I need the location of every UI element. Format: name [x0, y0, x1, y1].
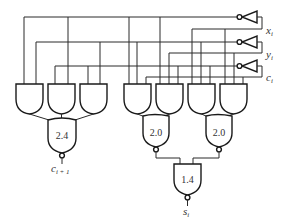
sum-gate-3: [188, 84, 215, 114]
carry-gate-3: [80, 84, 107, 114]
output-label-carry: ci + 1: [51, 162, 70, 176]
sum-gate-4: [220, 84, 247, 114]
inverter-y: [237, 36, 262, 53]
sum-gate-1: [124, 84, 151, 114]
input-label-c: ci: [266, 71, 273, 85]
carry-input-wires: [24, 17, 100, 84]
sum-input-wires: [129, 17, 243, 84]
sum-final-wires: [156, 152, 219, 164]
input-label-y: yi: [265, 48, 273, 62]
inverter-c: [237, 60, 262, 77]
sum-output-gate: 1.4: [174, 164, 201, 206]
input-label-x: xi: [265, 24, 273, 38]
full-adder-circuit: 2.4 2.0 2.0 1.4 xi yi ci ci + 1 si: [0, 0, 287, 223]
sum-left-gate: 2.0: [143, 115, 169, 152]
sum-output-gate-label: 1.4: [181, 174, 194, 185]
carry-gate-label: 2.4: [56, 130, 69, 141]
carry-output-gate: 2.4: [48, 118, 76, 164]
sum-right-gate: 2.0: [206, 115, 232, 152]
sum-right-gate-label: 2.0: [213, 127, 226, 138]
sum-left-gate-label: 2.0: [150, 127, 163, 138]
inverter-x: [237, 11, 262, 29]
output-label-sum: si: [183, 205, 189, 219]
carry-gate-1: [16, 84, 43, 114]
sum-gate-2: [156, 84, 183, 114]
carry-gate-2: [48, 84, 75, 114]
